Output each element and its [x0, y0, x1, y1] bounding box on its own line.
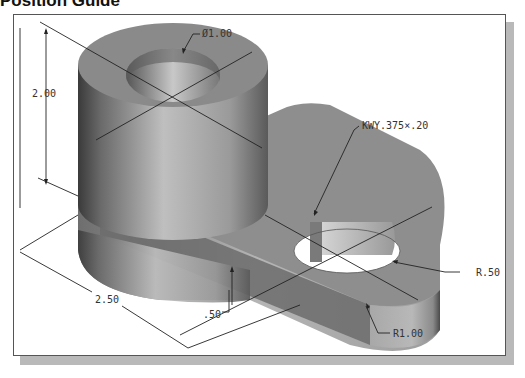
- thickness-label: .50: [203, 309, 221, 320]
- part-drawing: Ø1.00 2.00 2.50 .50 KWY.375×.20 R.50 R1.…: [0, 0, 525, 378]
- boss-cylinder: [78, 23, 268, 240]
- small-radius-label: R.50: [476, 267, 500, 278]
- hole-diameter-label: Ø1.00: [202, 28, 232, 39]
- length-label: 2.50: [95, 294, 119, 305]
- height-label: 2.00: [32, 88, 56, 99]
- outer-radius-label: R1.00: [393, 328, 423, 339]
- keyway-label: KWY.375×.20: [362, 120, 428, 131]
